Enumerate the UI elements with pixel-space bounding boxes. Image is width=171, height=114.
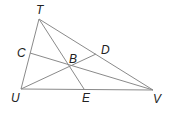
side-uv: [21, 89, 153, 90]
cevian-vc: [30, 53, 153, 90]
triangle-diagram: T C U B D E V: [0, 0, 171, 114]
label-t: T: [36, 3, 45, 17]
label-e: E: [82, 91, 91, 105]
cevian-ud: [21, 54, 96, 89]
label-u: U: [11, 91, 20, 105]
cevian-te: [39, 19, 84, 89]
label-d: D: [101, 43, 110, 57]
label-c: C: [17, 46, 26, 60]
label-b: B: [69, 52, 77, 66]
label-v: V: [153, 92, 162, 106]
